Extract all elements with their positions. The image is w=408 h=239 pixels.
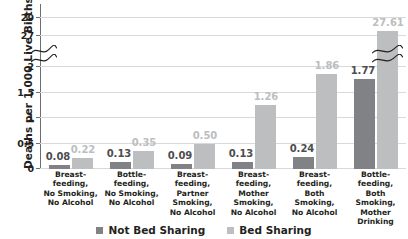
legend-swatch-icon	[227, 227, 234, 234]
legend-label: Bed Sharing	[239, 224, 311, 236]
category-label: Breast-feeding,MotherSmoking,No Alcohol	[223, 170, 284, 217]
gridline	[40, 117, 406, 118]
bar-not-bed-sharing	[293, 157, 314, 169]
y-tick-label: 27	[21, 30, 34, 41]
category-label: Breast-feeding,No Smoking,No Alcohol	[40, 170, 101, 208]
y-tick	[36, 35, 40, 36]
bar-not-bed-sharing	[354, 79, 375, 169]
bar-value-label: 27.61	[372, 17, 404, 28]
legend-swatch-icon	[96, 227, 103, 234]
y-tick-label: 1	[27, 112, 34, 123]
bar-bed-sharing	[133, 151, 154, 169]
category-label: Bottle-feeding,No Smoking,No Alcohol	[101, 170, 162, 208]
bar-not-bed-sharing	[232, 162, 253, 169]
bar-value-label: 1.86	[315, 60, 340, 71]
bar-break-lower-icon	[372, 54, 403, 65]
legend-item-bed-sharing: Bed Sharing	[227, 224, 311, 236]
y-tick-label: 0.5	[17, 137, 34, 148]
category-label: Breast-feeding,PartnerSmoking,No Alcohol	[162, 170, 223, 217]
bar-bed-sharing	[255, 105, 276, 169]
y-tick	[36, 17, 40, 18]
bar-value-label: 0.50	[193, 130, 218, 141]
y-axis-line	[40, 4, 41, 169]
bar-value-label: 0.24	[290, 143, 315, 154]
y-tick	[36, 143, 40, 144]
y-tick-label: 29	[21, 12, 34, 23]
gridline	[40, 92, 406, 93]
bar-value-label: 0.09	[168, 150, 193, 161]
bar-value-label: 0.22	[71, 144, 96, 155]
category-label: Breast-feeding,BothSmoking,No Alcohol	[284, 170, 345, 217]
legend-label: Not Bed Sharing	[108, 224, 205, 236]
bar-not-bed-sharing	[110, 162, 131, 169]
gridline	[40, 35, 406, 36]
bar-chart: Deaths per 1,000 Live Births 00.511.5227…	[0, 0, 408, 239]
plot-area: 00.511.5227290.080.220.130.350.090.500.1…	[40, 4, 406, 169]
y-tick	[36, 66, 40, 67]
bar-not-bed-sharing	[49, 165, 70, 169]
y-tick	[36, 92, 40, 93]
y-tick	[36, 168, 40, 169]
category-labels: Breast-feeding,No Smoking,No AlcoholBott…	[40, 170, 406, 222]
bar-not-bed-sharing	[171, 164, 192, 169]
bar-value-label: 1.77	[351, 65, 376, 76]
bar-bed-sharing	[72, 158, 93, 169]
gridline	[40, 168, 406, 169]
y-tick	[36, 117, 40, 118]
bar-bed-sharing	[316, 74, 337, 169]
y-tick-label: 0	[27, 163, 34, 174]
axis-break-lower-icon	[31, 54, 57, 65]
bar-bed-sharing	[194, 144, 215, 170]
bar-value-label: 1.26	[254, 91, 279, 102]
chart-legend: Not Bed Sharing Bed Sharing	[0, 224, 408, 239]
category-label: Bottle-feeding,BothSmoking,MotherDrinkin…	[345, 170, 406, 226]
y-tick-label: 1.5	[17, 86, 34, 97]
gridline	[40, 17, 406, 18]
bar-value-label: 0.13	[107, 148, 132, 159]
legend-item-not-bed-sharing: Not Bed Sharing	[96, 224, 205, 236]
bar-value-label: 0.35	[132, 137, 157, 148]
bar-value-label: 0.13	[229, 148, 254, 159]
bar-value-label: 0.08	[46, 151, 71, 162]
